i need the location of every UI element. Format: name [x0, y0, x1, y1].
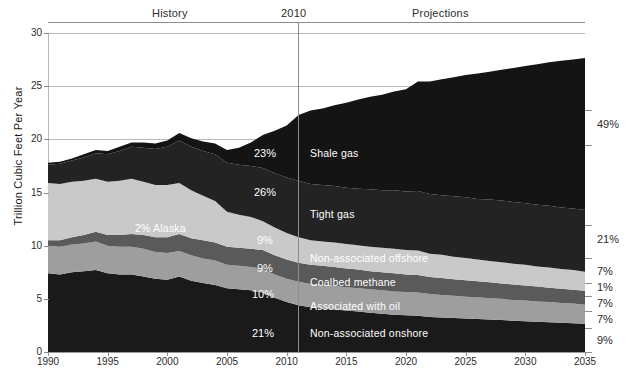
right-edge-tick: [585, 145, 592, 146]
y-tick-mark: [44, 86, 49, 87]
series-label-alaska: 2% Alaska: [135, 222, 186, 234]
x-tick-mark: [406, 352, 407, 356]
x-tick-label: 2035: [574, 356, 596, 367]
percent-associated-with-oil: 10%: [252, 288, 274, 300]
series-label-associated-with-oil: Associated with oil: [310, 300, 400, 312]
x-tick-label: 2000: [156, 356, 178, 367]
x-axis-line: [48, 352, 585, 353]
x-tick-label: 2025: [455, 356, 477, 367]
y-tick-mark: [44, 139, 49, 140]
series-label-coalbed-methane: Coalbed methane: [310, 276, 396, 288]
right-edge-tick: [585, 110, 592, 111]
series-label-non-associated-offshore: Non-associated offshore: [310, 252, 428, 264]
percent-shale-gas: 23%: [254, 147, 276, 159]
x-tick-mark: [346, 352, 347, 356]
right-edge-tick: [585, 258, 592, 259]
y-tick-label: 0: [0, 346, 42, 357]
x-tick-label: 2005: [216, 356, 238, 367]
header-history-label: History: [152, 7, 188, 19]
right-edge-tick: [585, 296, 592, 297]
divider-2010: [298, 22, 299, 353]
right-edge-tick: [585, 352, 592, 353]
header-rule: [48, 22, 585, 23]
right-percent-label: 49%: [597, 118, 619, 130]
right-percent-label: 1%: [597, 281, 613, 293]
x-tick-mark: [167, 352, 168, 356]
x-tick-label: 2030: [514, 356, 536, 367]
x-tick-mark: [287, 352, 288, 356]
header-projections-label: Projections: [412, 7, 469, 19]
y-axis-title: Trillion Cubic Feet Per Year: [12, 16, 24, 296]
x-tick-mark: [108, 352, 109, 356]
right-percent-label: 9%: [597, 334, 613, 346]
right-edge-tick: [585, 311, 592, 312]
y-tick-mark: [44, 246, 49, 247]
y-tick-mark: [44, 33, 49, 34]
y-tick-mark: [44, 193, 49, 194]
percent-tight-gas: 26%: [254, 186, 276, 198]
x-tick-label: 1995: [97, 356, 119, 367]
x-tick-mark: [525, 352, 526, 356]
percent-coalbed-methane: 9%: [257, 262, 273, 274]
chart-root: History 2010 Projections 051015202530 Tr…: [0, 0, 633, 387]
series-label-tight-gas: Tight gas: [310, 208, 355, 220]
right-percent-label: 7%: [597, 297, 613, 309]
right-percent-label: 21%: [597, 233, 619, 245]
percent-non-associated-offshore: 9%: [257, 234, 273, 246]
percent-non-associated-onshore: 21%: [252, 327, 274, 339]
x-tick-label: 2010: [276, 356, 298, 367]
header-year-marker: 2010: [281, 7, 306, 19]
x-tick-label: 2020: [395, 356, 417, 367]
x-tick-mark: [466, 352, 467, 356]
right-edge-tick: [585, 328, 592, 329]
right-percent-label: 7%: [597, 313, 613, 325]
x-tick-mark: [227, 352, 228, 356]
right-edge-tick: [585, 283, 592, 284]
series-label-non-associated-onshore: Non-associated onshore: [310, 327, 428, 339]
right-edge-tick: [585, 225, 592, 226]
series-label-shale-gas: Shale gas: [310, 147, 359, 159]
x-tick-label: 2015: [335, 356, 357, 367]
y-tick-mark: [44, 299, 49, 300]
x-tick-mark: [48, 352, 49, 356]
right-percent-label: 7%: [597, 265, 613, 277]
x-tick-label: 1990: [37, 356, 59, 367]
